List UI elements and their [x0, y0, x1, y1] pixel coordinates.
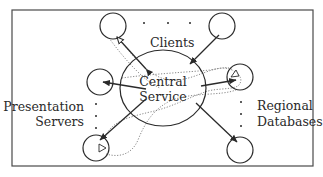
regional-databases-label-line2: Databases — [257, 114, 323, 129]
arrow-central-to-database-n — [196, 103, 237, 142]
regional-databases-label-line1: Regional — [257, 98, 313, 113]
servers-ellipsis-dots — [95, 103, 97, 129]
open-arrowhead-database-1 — [231, 70, 239, 77]
clients-ellipsis-dots — [143, 22, 191, 24]
central-service-label-line1: Central — [139, 74, 186, 89]
open-arrowhead-server-n — [99, 144, 106, 152]
client-1-node — [100, 13, 126, 39]
presentation-servers-label-line2: Servers — [35, 114, 84, 129]
presentation-servers-label-line1: Presentation — [3, 99, 84, 114]
architecture-diagram: Clients Central Service Presentation Ser… — [0, 0, 323, 177]
clients-label: Clients — [150, 35, 194, 50]
presentation-server-1-node — [87, 69, 113, 95]
databases-ellipsis-dots — [240, 101, 242, 127]
arrow-central-to-client-1 — [117, 37, 146, 69]
central-service-label-line2: Service — [139, 89, 186, 104]
regional-database-n-node — [227, 137, 253, 163]
client-n-node — [209, 13, 235, 39]
